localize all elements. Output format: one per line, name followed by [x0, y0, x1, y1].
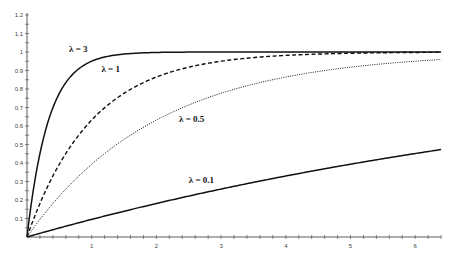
curves	[27, 52, 441, 237]
curve-lambda-0-1	[27, 150, 441, 237]
y-tick-label: 0.1	[15, 216, 24, 222]
y-tick-label: 0.4	[15, 160, 24, 166]
curve-lambda-1	[27, 52, 441, 237]
y-tick-label: 0.2	[15, 197, 24, 203]
line-chart: 1234560.10.20.30.40.50.60.70.80.911.11.2…	[0, 0, 458, 261]
y-tick-label: 0.3	[15, 179, 24, 185]
y-tick-label: 0.5	[15, 142, 24, 148]
curve-lambda-3	[27, 52, 441, 237]
y-tick-label: 1.1	[15, 31, 24, 37]
x-tick-label: 5	[349, 243, 353, 249]
curve-labels: λ = 3λ = 1λ = 0.5λ = 0.1	[69, 44, 214, 185]
curve-label: λ = 0.1	[189, 175, 215, 185]
y-tick-label: 0.6	[15, 123, 24, 129]
curve-label: λ = 1	[101, 64, 120, 74]
x-tick-label: 1	[90, 243, 94, 249]
x-tick-label: 2	[155, 243, 159, 249]
x-tick-label: 3	[219, 243, 223, 249]
x-tick-label: 4	[284, 243, 288, 249]
y-tick-label: 0.9	[15, 68, 24, 74]
curve-lambda-0-5	[27, 60, 441, 237]
y-tick-label: 1.2	[15, 12, 24, 18]
y-tick-label: 0.7	[15, 105, 24, 111]
curve-label: λ = 0.5	[179, 114, 205, 124]
x-tick-label: 6	[414, 243, 418, 249]
y-tick-label: 1	[20, 49, 24, 55]
curve-label: λ = 3	[69, 44, 88, 54]
y-tick-label: 0.8	[15, 86, 24, 92]
